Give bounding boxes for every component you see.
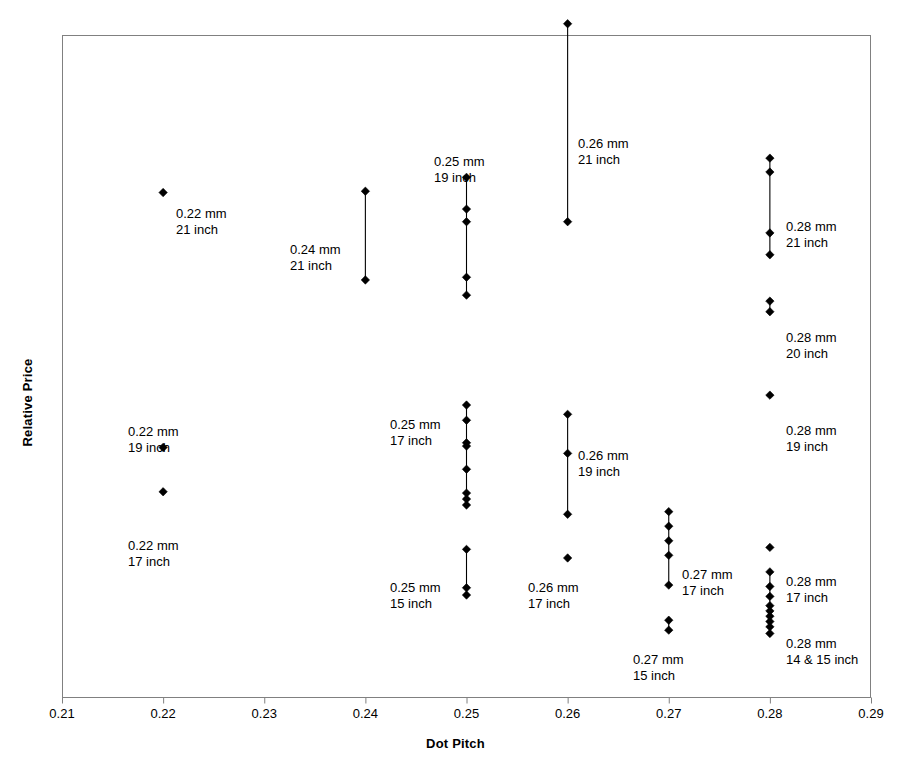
series-label: 0.28 mm17 inch <box>786 574 837 605</box>
series-label-line: 0.26 mm <box>528 580 579 596</box>
series-label-line: 15 inch <box>633 668 684 684</box>
series-label-line: 19 inch <box>786 439 837 455</box>
series-label: 0.22 mm19 inch <box>128 424 179 455</box>
series-label-line: 17 inch <box>786 590 837 606</box>
series-label: 0.28 mm14 & 15 inch <box>786 636 858 667</box>
series-label: 0.22 mm21 inch <box>176 206 227 237</box>
x-tick-label: 0.23 <box>234 706 294 721</box>
series-label-line: 0.22 mm <box>128 424 179 440</box>
series-label-line: 0.25 mm <box>390 580 441 596</box>
series-label: 0.25 mm17 inch <box>390 417 441 448</box>
series-label-line: 0.28 mm <box>786 574 837 590</box>
series-label: 0.28 mm19 inch <box>786 423 837 454</box>
x-tick-label: 0.21 <box>32 706 92 721</box>
series-label-line: 14 & 15 inch <box>786 652 858 668</box>
series-label: 0.26 mm17 inch <box>528 580 579 611</box>
series-label-line: 0.28 mm <box>786 423 837 439</box>
x-tick-label: 0.24 <box>335 706 395 721</box>
series-label: 0.25 mm19 inch <box>434 154 485 185</box>
series-label-line: 17 inch <box>682 583 733 599</box>
x-tick-label: 0.28 <box>740 706 800 721</box>
x-tick-label: 0.29 <box>841 706 901 721</box>
series-label: 0.28 mm20 inch <box>786 330 837 361</box>
series-label: 0.27 mm17 inch <box>682 567 733 598</box>
series-label-line: 17 inch <box>528 596 579 612</box>
series-label-line: 0.28 mm <box>786 330 837 346</box>
x-tick-label: 0.22 <box>133 706 193 721</box>
series-label-line: 15 inch <box>390 596 441 612</box>
series-label-line: 19 inch <box>434 170 485 186</box>
series-label: 0.22 mm17 inch <box>128 538 179 569</box>
x-tick-label: 0.27 <box>639 706 699 721</box>
series-label-line: 21 inch <box>176 222 227 238</box>
series-label-line: 19 inch <box>128 440 179 456</box>
x-tick-label: 0.25 <box>437 706 497 721</box>
series-label-line: 0.26 mm <box>578 448 629 464</box>
series-label-line: 0.27 mm <box>682 567 733 583</box>
series-label-line: 21 inch <box>578 152 629 168</box>
series-label: 0.26 mm21 inch <box>578 136 629 167</box>
series-label-line: 20 inch <box>786 346 837 362</box>
series-label-line: 21 inch <box>786 235 837 251</box>
x-tick-label: 0.26 <box>538 706 598 721</box>
series-label-line: 21 inch <box>290 258 341 274</box>
series-label-line: 0.22 mm <box>128 538 179 554</box>
series-label-line: 0.25 mm <box>434 154 485 170</box>
series-label: 0.25 mm15 inch <box>390 580 441 611</box>
series-label-line: 0.22 mm <box>176 206 227 222</box>
series-label-line: 0.25 mm <box>390 417 441 433</box>
chart-container: 0.210.220.230.240.250.260.270.280.29 0.2… <box>0 0 911 768</box>
y-axis-title: Relative Price <box>20 333 35 473</box>
series-label: 0.24 mm21 inch <box>290 242 341 273</box>
series-label-line: 17 inch <box>128 554 179 570</box>
series-label-line: 17 inch <box>390 433 441 449</box>
series-label-line: 0.26 mm <box>578 136 629 152</box>
series-label: 0.28 mm21 inch <box>786 219 837 250</box>
x-axis-ticks <box>63 698 872 704</box>
series-label-line: 0.27 mm <box>633 652 684 668</box>
series-label: 0.27 mm15 inch <box>633 652 684 683</box>
data-point-marker <box>563 20 571 28</box>
scatter-plot-canvas <box>0 0 911 768</box>
series-label-line: 0.24 mm <box>290 242 341 258</box>
x-axis-title: Dot Pitch <box>0 736 911 751</box>
series-label-line: 0.28 mm <box>786 636 858 652</box>
series-label-line: 19 inch <box>578 464 629 480</box>
series-label: 0.26 mm19 inch <box>578 448 629 479</box>
series-label-line: 0.28 mm <box>786 219 837 235</box>
